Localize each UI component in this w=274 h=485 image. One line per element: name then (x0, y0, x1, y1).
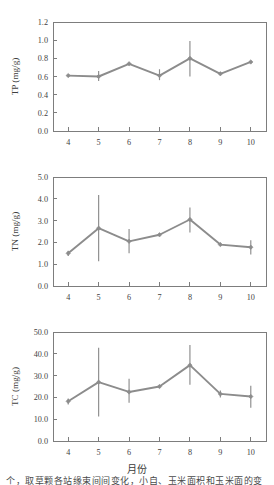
y-axis-label: TN (mg/g) (10, 212, 20, 252)
x-tick-label: 4 (66, 293, 70, 302)
x-tick-label: 6 (127, 293, 131, 302)
chart-panel-tc: 0.010.020.030.040.050.045678910TC (mg/g) (0, 318, 274, 478)
data-point-marker (249, 245, 253, 249)
y-tick-label: 1.0 (38, 260, 48, 269)
x-tick-label: 9 (218, 293, 222, 302)
plot-area-tp: 0.00.20.40.60.81.01.245678910TP (mg/g) (10, 18, 266, 147)
chart-svg-tp: 0.00.20.40.60.81.01.245678910TP (mg/g) (0, 8, 274, 158)
y-tick-label: 0.0 (38, 282, 48, 291)
figure-caption: 个，取草颗各站缘束间间变化，小自、玉米面积和玉米面的变 (0, 476, 274, 485)
y-tick-label: 0.0 (38, 127, 48, 136)
plot-area-tn: 0.01.02.03.04.05.045678910TN (mg/g) (10, 173, 266, 302)
x-tick-label: 10 (247, 448, 255, 457)
y-tick-label: 0.6 (38, 73, 48, 82)
x-axis-title: 月份 (0, 461, 274, 476)
y-tick-label: 40.0 (34, 350, 48, 359)
y-tick-label: 3.0 (38, 217, 48, 226)
y-axis-label: TC (mg/g) (10, 367, 20, 406)
x-tick-label: 5 (97, 448, 101, 457)
data-point-marker (66, 73, 70, 77)
y-tick-label: 5.0 (38, 173, 48, 182)
y-tick-label: 2.0 (38, 238, 48, 247)
y-tick-label: 0.0 (38, 437, 48, 446)
plot-frame (53, 177, 266, 286)
y-tick-label: 10.0 (34, 415, 48, 424)
x-tick-label: 5 (97, 138, 101, 147)
y-tick-label: 1.2 (38, 18, 48, 27)
x-tick-label: 10 (247, 138, 255, 147)
chart-svg-tn: 0.01.02.03.04.05.045678910TN (mg/g) (0, 163, 274, 313)
x-tick-label: 8 (188, 293, 192, 302)
chart-svg-tc: 0.010.020.030.040.050.045678910TC (mg/g) (0, 318, 274, 478)
x-tick-label: 6 (127, 138, 131, 147)
y-tick-label: 20.0 (34, 393, 48, 402)
series-line (68, 365, 251, 401)
data-point-marker (127, 390, 131, 394)
x-tick-label: 8 (188, 448, 192, 457)
plot-area-tc: 0.010.020.030.040.050.045678910TC (mg/g) (10, 328, 266, 457)
x-tick-label: 9 (218, 138, 222, 147)
y-tick-label: 30.0 (34, 372, 48, 381)
x-tick-label: 4 (66, 448, 70, 457)
chart-panel-tp: 0.00.20.40.60.81.01.245678910TP (mg/g) (0, 8, 274, 158)
x-tick-label: 7 (157, 448, 161, 457)
y-tick-label: 1.0 (38, 36, 48, 45)
y-tick-label: 0.8 (38, 54, 48, 63)
y-axis-label: TP (mg/g) (10, 58, 20, 96)
y-tick-label: 0.2 (38, 109, 48, 118)
x-tick-label: 8 (188, 138, 192, 147)
y-tick-label: 50.0 (34, 328, 48, 337)
x-tick-label: 7 (157, 138, 161, 147)
x-tick-label: 4 (66, 138, 70, 147)
data-point-marker (249, 394, 253, 398)
y-tick-label: 4.0 (38, 195, 48, 204)
figure-caption-text: 个，取草颗各站缘束间间变化，小自、玉米面积和玉米面的变 (0, 476, 274, 485)
y-tick-label: 0.4 (38, 91, 48, 100)
chart-panel-tn: 0.01.02.03.04.05.045678910TN (mg/g) (0, 163, 274, 313)
x-tick-label: 6 (127, 448, 131, 457)
x-tick-label: 9 (218, 448, 222, 457)
x-tick-label: 10 (247, 293, 255, 302)
x-tick-label: 7 (157, 293, 161, 302)
figure-container: 0.00.20.40.60.81.01.245678910TP (mg/g) 0… (0, 0, 274, 485)
x-tick-label: 5 (97, 293, 101, 302)
